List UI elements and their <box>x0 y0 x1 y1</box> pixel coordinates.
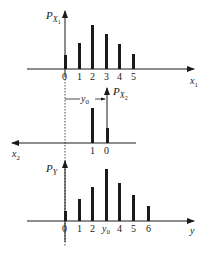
tick-x1-3: 3 <box>104 71 109 82</box>
tick-y-y0: y0 <box>101 223 110 236</box>
bottom-panel: 0 1 2 y0 4 5 6 PY y <box>27 161 195 242</box>
tick-y-0: 0 <box>62 223 67 234</box>
bar-y-y0 <box>105 169 108 221</box>
tick-y-6: 6 <box>146 223 151 234</box>
x2-label: x2 <box>11 148 20 162</box>
top-panel: 0 1 2 3 4 5 PX1 x1 <box>27 9 198 89</box>
tick-y-5: 5 <box>131 223 136 234</box>
y-label: y <box>189 225 195 236</box>
px2-label: PX2 <box>112 85 128 101</box>
tick-x1-1: 1 <box>77 71 82 82</box>
bar-y-5 <box>132 195 135 221</box>
tick-x1-5: 5 <box>131 71 136 82</box>
bar-x2-1 <box>91 108 94 143</box>
bar-x2-0 <box>106 128 109 143</box>
bar-y-6 <box>147 206 150 221</box>
bar-y-1 <box>78 199 81 221</box>
convolution-diagram: 0 1 2 3 4 5 PX1 x1 y0 1 0 PX2 x2 <box>0 0 207 253</box>
bar-x1-1 <box>78 43 81 69</box>
bar-x1-4 <box>118 44 121 69</box>
x1-label: x1 <box>189 75 198 89</box>
px1-label: PX1 <box>45 9 61 25</box>
shift-label: y0 <box>80 93 89 106</box>
tick-y-1: 1 <box>77 223 82 234</box>
tick-x2-1: 1 <box>90 145 95 156</box>
tick-y-2: 2 <box>90 223 95 234</box>
bar-y-4 <box>118 183 121 221</box>
tick-x1-0: 0 <box>62 71 67 82</box>
tick-x1-4: 4 <box>117 71 122 82</box>
bar-x1-0 <box>64 55 67 69</box>
tick-x1-2: 2 <box>90 71 95 82</box>
tick-y-4: 4 <box>117 223 122 234</box>
bar-y-0 <box>64 211 67 221</box>
bar-y-2 <box>91 187 94 221</box>
bar-x1-3 <box>105 34 108 69</box>
bar-x1-5 <box>132 54 135 69</box>
bar-x1-2 <box>91 25 94 69</box>
py-label: PY <box>45 162 59 177</box>
tick-x2-0: 0 <box>104 145 109 156</box>
